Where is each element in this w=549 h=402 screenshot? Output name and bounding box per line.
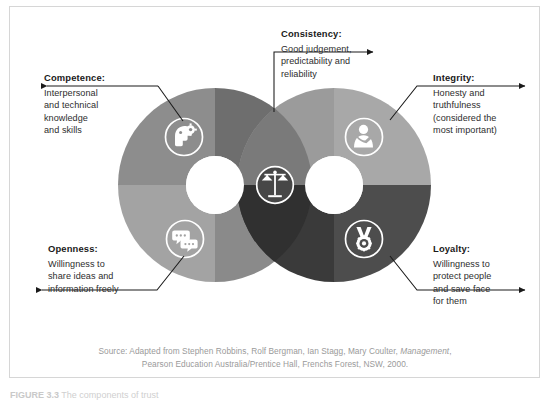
callout-openness-title: Openness: — [48, 243, 119, 255]
source-line1-post: , — [449, 346, 451, 356]
callout-openness: Openness: Willingness to share ideas and… — [44, 243, 119, 295]
scales-icon — [257, 167, 294, 204]
source-line2: Pearson Education Australia/Prentice Hal… — [142, 359, 408, 369]
figure-caption: FIGURE 3.3 The components of trust — [10, 390, 410, 401]
source-line1-italic: Management — [400, 346, 449, 356]
callout-integrity-title: Integrity: — [433, 72, 497, 84]
callout-loyalty-title: Loyalty: — [433, 243, 491, 255]
callout-integrity-body: Honesty and truthfulness (considered the… — [433, 87, 497, 137]
callout-consistency-title: Consistency: — [281, 28, 352, 40]
source-note: Source: Adapted from Stephen Robbins, Ro… — [60, 345, 490, 370]
callout-competence-title: Competence: — [44, 72, 105, 84]
figure-caption-text: The components of trust — [61, 390, 158, 400]
callout-integrity: Integrity: Honesty and truthfulness (con… — [430, 72, 497, 137]
right-hole — [305, 156, 363, 214]
callout-consistency: Consistency: Good judgement, predictabil… — [277, 28, 352, 80]
callout-openness-body: Willingness to share ideas and informati… — [48, 258, 119, 295]
source-line1-pre: Source: Adapted from Stephen Robbins, Ro… — [98, 346, 400, 356]
callout-consistency-body: Good judgement, predictability and relia… — [281, 43, 352, 80]
trust-components-diagram — [0, 0, 549, 402]
callout-loyalty-body: Willingness to protect people and save f… — [433, 258, 491, 308]
callout-competence: Competence: Interpersonal and technical … — [40, 72, 105, 137]
callout-competence-body: Interpersonal and technical knowledge an… — [44, 87, 105, 137]
figure-caption-number: FIGURE 3.3 — [10, 390, 59, 400]
left-hole — [186, 156, 244, 214]
callout-loyalty: Loyalty: Willingness to protect people a… — [430, 243, 491, 308]
